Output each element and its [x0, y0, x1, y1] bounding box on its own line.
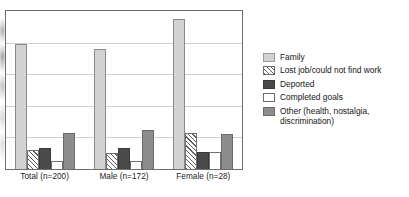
legend-item-label: Deported — [280, 79, 314, 89]
x-axis-label: Total (n=200) — [5, 172, 84, 181]
x-axis-label: Male (n=172) — [84, 172, 163, 181]
bar — [130, 161, 142, 169]
bar — [15, 44, 27, 169]
x-axis-labels: Total (n=200)Male (n=172)Female (n=28) — [5, 172, 243, 181]
bar — [106, 153, 118, 169]
chart-root: Total (n=200)Male (n=172)Female (n=28) F… — [0, 0, 409, 197]
bar — [185, 133, 197, 169]
plot-inner — [6, 11, 242, 169]
bar — [94, 49, 106, 169]
bar — [51, 161, 63, 169]
legend-swatch-deported-icon — [263, 80, 275, 89]
x-axis-label: Female (n=28) — [164, 172, 243, 181]
bar — [118, 148, 130, 169]
bar — [27, 150, 39, 169]
bar — [63, 133, 75, 169]
legend-swatch-completed-goals-icon — [263, 93, 275, 102]
legend-item[interactable]: Lost job/could not find work — [263, 65, 409, 75]
bar — [142, 130, 154, 170]
legend-swatch-lost-job-icon — [263, 66, 275, 75]
legend-item[interactable]: Other (health, nostalgia, discrimination… — [263, 106, 409, 126]
bar — [173, 19, 185, 169]
legend-swatch-other-icon — [263, 107, 275, 116]
bar-group — [163, 11, 242, 169]
legend-item[interactable]: Completed goals — [263, 92, 409, 102]
bar — [39, 148, 51, 169]
legend-item-label: Family — [280, 52, 305, 62]
legend-item-label: Completed goals — [280, 92, 343, 102]
bar-group — [85, 11, 164, 169]
bar — [221, 134, 233, 169]
legend-item[interactable]: Deported — [263, 79, 409, 89]
legend-item[interactable]: Family — [263, 52, 409, 62]
legend-swatch-family-icon — [263, 53, 275, 62]
bar — [197, 152, 209, 169]
plot-area — [5, 10, 243, 170]
legend-item-label: Lost job/could not find work — [280, 65, 382, 75]
bar — [209, 152, 221, 169]
bar-group — [6, 11, 85, 169]
bar-groups — [6, 11, 242, 169]
chart-legend: FamilyLost job/could not find workDeport… — [263, 52, 409, 129]
legend-item-label: Other (health, nostalgia, discrimination… — [280, 106, 369, 126]
